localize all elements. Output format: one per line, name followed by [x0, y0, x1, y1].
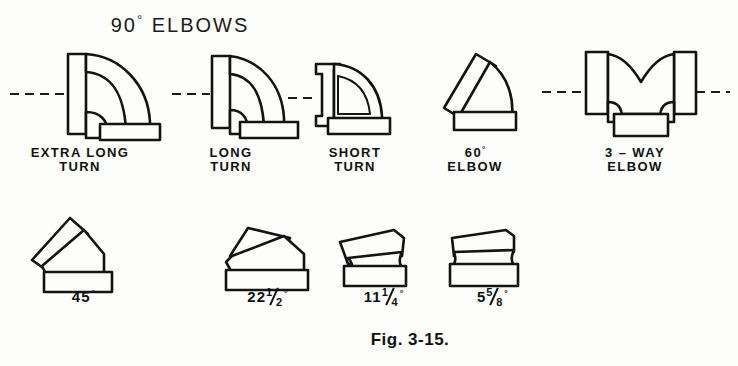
figure-title: 90° ELBOWS [0, 12, 360, 37]
extra-long-turn-drawing [8, 46, 168, 142]
label-long-turn: LONG TURN [168, 146, 294, 174]
five-and-five-eighths-degree-drawing [440, 228, 546, 294]
label-short-turn: SHORT TURN [300, 146, 410, 174]
left-hub [586, 52, 608, 114]
fraction-denominator: 4 [392, 296, 399, 308]
label-sixty-degree-elbow: 60° ELBOW [420, 146, 530, 174]
base-flange [100, 124, 160, 140]
degree-icon: ° [400, 288, 405, 298]
eleven-and-quarter-degree-drawing [330, 228, 440, 294]
angle-whole: 5 [477, 288, 486, 305]
label-three-way-elbow: 3 – WAY ELBOW [540, 146, 730, 174]
label-eleven-and-quarter-degree: 1114° [328, 288, 440, 305]
label-five-and-five-eighths-degree: 558° [438, 288, 548, 305]
forty-five-degree-drawing [26, 214, 142, 294]
base-flange [454, 112, 516, 130]
short-turn-drawing [288, 56, 406, 142]
degree-icon: ° [482, 145, 485, 154]
angle-whole: 22 [247, 288, 266, 305]
label-extra-long-turn: EXTRA LONG TURN [0, 146, 160, 174]
figure-title-rest: ELBOWS [144, 14, 249, 36]
degree-icon: ° [504, 288, 509, 298]
figure-title-number: 90 [111, 14, 137, 36]
fraction-one-half: 12 [266, 289, 283, 304]
figure-caption: Fig. 3-15. [330, 330, 490, 350]
fraction-denominator: 2 [276, 296, 283, 308]
hub-rectangle [212, 56, 230, 128]
label-sixty-number: 60 [465, 145, 482, 160]
base-flange [450, 264, 518, 286]
label-sixty-elbow-word: ELBOW [447, 159, 502, 174]
base-flange [344, 266, 406, 286]
label-twenty-two-and-half-degree: 2212° [206, 288, 330, 305]
fraction-denominator: 8 [496, 296, 503, 308]
hub-rectangle [68, 54, 86, 134]
fraction-five-eighths: 58 [486, 289, 503, 304]
degree-icon: ° [92, 288, 97, 298]
fraction-one-quarter: 14 [382, 289, 399, 304]
figure-3-15: 90° ELBOWS [0, 0, 738, 366]
sixty-degree-elbow-drawing [424, 50, 528, 142]
angle-whole: 45 [72, 288, 91, 305]
base-flange [328, 118, 390, 134]
bottom-flange [614, 114, 668, 136]
three-way-elbow-drawing [540, 44, 732, 144]
label-forty-five-degree: 45° [26, 288, 142, 305]
degree-icon: ° [284, 288, 289, 298]
twenty-two-and-half-degree-drawing [212, 224, 336, 296]
right-hub [674, 52, 696, 114]
angle-whole: 11 [364, 288, 382, 305]
